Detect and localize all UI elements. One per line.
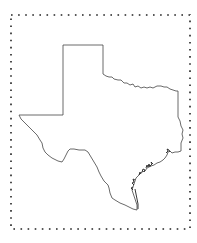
texas-map [0, 0, 197, 243]
coastline-detail [131, 149, 170, 209]
texas-outline [19, 45, 183, 210]
dotted-border [11, 15, 190, 229]
map-frame [0, 0, 197, 243]
